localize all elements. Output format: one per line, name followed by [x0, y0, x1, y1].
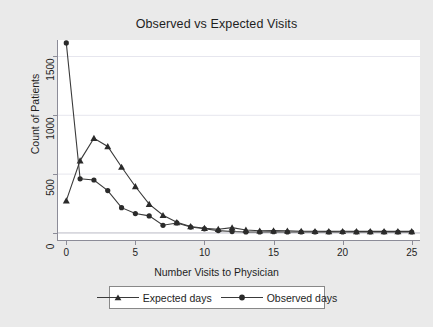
data-point-marker	[257, 229, 262, 234]
data-point-marker	[202, 226, 207, 231]
y-tick-label: 1500	[45, 55, 56, 85]
data-point-marker	[409, 229, 414, 234]
x-tick-mark	[204, 241, 205, 245]
chart-title: Observed vs Expected Visits	[0, 17, 433, 31]
y-tick-label: 500	[45, 173, 56, 203]
data-point-marker	[354, 229, 359, 234]
data-point-marker	[119, 205, 124, 210]
data-point-marker	[147, 213, 152, 218]
x-tick-label: 0	[51, 247, 81, 258]
x-tick-mark	[412, 241, 413, 245]
legend-label-expected: Expected days	[143, 292, 212, 304]
data-point-marker	[174, 220, 179, 225]
data-point-marker	[285, 229, 290, 234]
x-tick-label: 5	[120, 247, 150, 258]
y-tick-mark	[53, 174, 57, 175]
y-tick-label: 1000	[45, 114, 56, 144]
x-tick-label: 20	[328, 247, 358, 258]
data-point-marker	[381, 229, 386, 234]
data-point-marker	[299, 229, 304, 234]
legend-item-expected[interactable]: Expected days	[97, 292, 212, 304]
x-tick-label: 10	[189, 247, 219, 258]
data-point-marker	[118, 164, 125, 170]
series-line-0	[66, 138, 411, 231]
x-tick-mark	[135, 241, 136, 245]
legend-item-observed[interactable]: Observed days	[221, 292, 338, 304]
data-point-marker	[160, 223, 165, 228]
data-point-marker	[271, 229, 276, 234]
data-point-marker	[368, 229, 373, 234]
x-axis-spine	[57, 240, 420, 241]
data-point-marker	[188, 224, 193, 229]
plot-area	[58, 40, 420, 240]
data-point-marker	[133, 211, 138, 216]
circle-icon	[221, 292, 263, 303]
data-point-marker	[64, 40, 69, 45]
data-point-marker	[216, 228, 221, 233]
x-tick-mark	[343, 241, 344, 245]
data-point-marker	[63, 197, 70, 203]
legend-label-observed: Observed days	[267, 292, 338, 304]
data-point-marker	[340, 229, 345, 234]
data-point-marker	[229, 229, 234, 234]
x-tick-mark	[274, 241, 275, 245]
y-axis-spine	[57, 40, 58, 241]
y-tick-mark	[53, 56, 57, 57]
data-point-marker	[105, 188, 110, 193]
y-tick-mark	[53, 115, 57, 116]
x-axis-title: Number Visits to Physician	[0, 266, 433, 278]
x-tick-label: 25	[397, 247, 427, 258]
data-point-marker	[91, 177, 96, 182]
chart-legend: Expected days Observed days	[109, 286, 325, 309]
series-line-1	[66, 43, 411, 232]
y-tick-mark	[53, 233, 57, 234]
data-point-marker	[104, 143, 111, 149]
data-point-marker	[395, 229, 400, 234]
data-point-marker	[312, 229, 317, 234]
data-point-marker	[326, 229, 331, 234]
data-point-marker	[78, 176, 83, 181]
triangle-icon	[97, 292, 139, 303]
chart-figure: Observed vs Expected Visits Count of Pat…	[0, 0, 433, 327]
y-axis-title: Count of Patients	[29, 44, 41, 184]
x-tick-label: 15	[259, 247, 289, 258]
data-point-marker	[243, 229, 248, 234]
x-tick-mark	[66, 241, 67, 245]
data-point-marker	[90, 135, 97, 141]
plot-svg	[58, 40, 420, 240]
